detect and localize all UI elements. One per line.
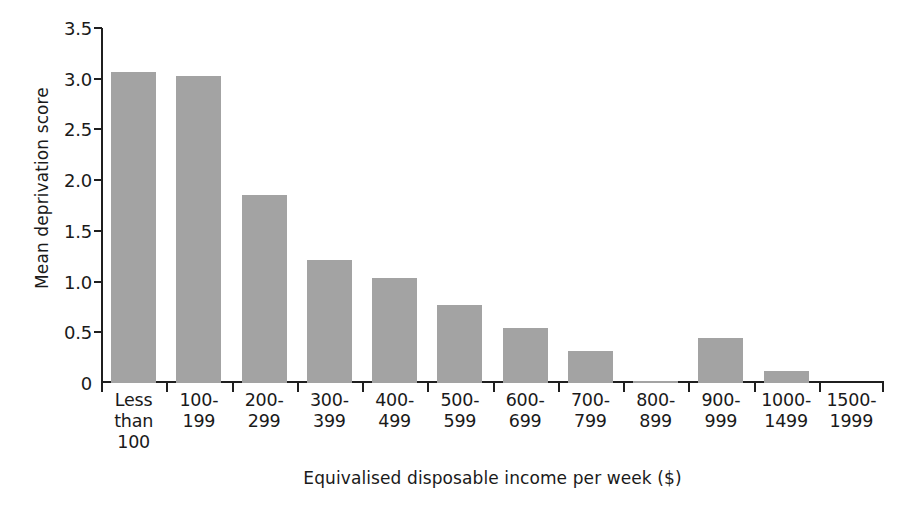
plot-area (101, 28, 884, 383)
y-axis-tick-label: 2.5 (40, 119, 92, 140)
bar (176, 76, 221, 383)
y-axis-tick-label: 2.0 (40, 170, 92, 191)
bar (372, 278, 417, 383)
x-axis-tick-label: 900-999 (684, 390, 757, 432)
bar (633, 381, 678, 383)
bar (307, 260, 352, 383)
x-axis-tick-label: 300-399 (293, 390, 366, 432)
bar (764, 371, 809, 383)
y-axis-tick-label: 3.5 (40, 18, 92, 39)
y-axis-tick-label: 1.5 (40, 220, 92, 241)
y-axis-tick-label: 0 (40, 373, 92, 394)
x-axis-tick-label: 800-899 (619, 390, 692, 432)
x-axis-title: Equivalised disposable income per week (… (101, 468, 884, 488)
x-axis-tick-label: 100-199 (162, 390, 235, 432)
x-axis-tick-label: Lessthan100 (97, 390, 170, 453)
bar (111, 72, 156, 383)
x-axis-tick-label: 500-599 (423, 390, 496, 432)
bar (568, 351, 613, 383)
y-axis-tick-labels: 00.51.01.52.02.53.03.5 (40, 0, 92, 508)
y-axis-tick-label: 1.0 (40, 271, 92, 292)
bar-chart-figure: Mean deprivation score 00.51.01.52.02.53… (0, 0, 905, 508)
x-axis-tick-label: 1500-1999 (815, 390, 888, 432)
x-axis-tick-label: 1000-1499 (750, 390, 823, 432)
y-axis-tick-label: 0.5 (40, 322, 92, 343)
x-axis-tick-label: 700-799 (554, 390, 627, 432)
bar (437, 305, 482, 383)
y-axis-tick-label: 3.0 (40, 68, 92, 89)
bar (698, 338, 743, 383)
x-axis-tick-label: 200-299 (228, 390, 301, 432)
x-axis-tick-label: 600-699 (489, 390, 562, 432)
x-axis-tick-labels: Lessthan100100-199200-299300-399400-4995… (101, 390, 884, 452)
bar (503, 328, 548, 383)
bar-series (101, 28, 884, 383)
x-axis-tick-label: 400-499 (358, 390, 431, 432)
bar (242, 195, 287, 383)
